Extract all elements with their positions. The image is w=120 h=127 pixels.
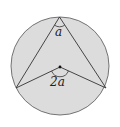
central-angle-label: 2a xyxy=(49,75,65,89)
center-point xyxy=(59,66,62,69)
inscribed-angle-label: a xyxy=(55,25,62,39)
inscribed-angle-diagram: a 2a xyxy=(0,0,120,127)
